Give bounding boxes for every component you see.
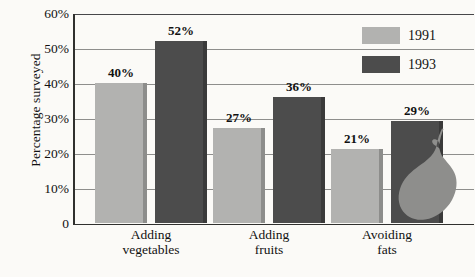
bar-value-label: 29%	[404, 103, 430, 119]
category-label-line: fats	[317, 243, 457, 258]
legend-item-1993: 1993	[362, 56, 436, 73]
legend-label-1993: 1993	[408, 57, 436, 73]
bar-face	[213, 128, 261, 223]
y-tick-label-60: 60%	[9, 6, 69, 22]
gridline-50	[73, 49, 474, 50]
y-axis-title: Percentage surveyed	[28, 10, 44, 210]
y-axis-line	[73, 14, 75, 225]
legend-swatch-1991	[362, 27, 400, 44]
gridline-60	[73, 14, 474, 15]
y-tick-label-10: 10%	[9, 181, 69, 197]
y-tick-label-50: 50%	[9, 41, 69, 57]
category-label-line: Avoiding	[317, 228, 457, 243]
y-tick-label-30: 30%	[9, 111, 69, 127]
bar-value-label: 27%	[226, 110, 252, 126]
y-tick-label-40: 40%	[9, 76, 69, 92]
bar-1991-Avoiding-fats: 21%	[331, 149, 383, 223]
y-tick-label-20: 20%	[9, 146, 69, 162]
pear-illustration	[396, 126, 468, 224]
bar-side-shadow	[261, 128, 265, 223]
bar-value-label: 40%	[108, 65, 134, 81]
bar-side-shadow	[321, 97, 325, 223]
bar-1993-Adding-fruits: 36%	[273, 97, 325, 223]
bar-side-shadow	[379, 149, 383, 223]
bar-side-shadow	[143, 83, 147, 223]
bar-1991-Adding-fruits: 27%	[213, 128, 265, 223]
bar-face	[95, 83, 143, 223]
bar-face	[155, 41, 203, 223]
bar-face	[331, 149, 379, 223]
legend-item-1991: 1991	[362, 27, 436, 44]
y-tick-label-0: 0	[9, 216, 69, 232]
legend-swatch-1993	[362, 56, 400, 73]
bar-face	[273, 97, 321, 223]
category-label-Avoiding-fats: Avoidingfats	[317, 228, 457, 257]
bar-value-label: 21%	[344, 131, 370, 147]
bar-value-label: 52%	[168, 23, 194, 39]
bar-chart-figure: Percentage surveyed 40%52%27%36%21%29% 0…	[0, 0, 475, 277]
bar-side-shadow	[203, 41, 207, 223]
bar-1991-Adding-vegetables: 40%	[95, 83, 147, 223]
bar-value-label: 36%	[286, 79, 312, 95]
bar-1993-Adding-vegetables: 52%	[155, 41, 207, 223]
legend-label-1991: 1991	[408, 28, 436, 44]
